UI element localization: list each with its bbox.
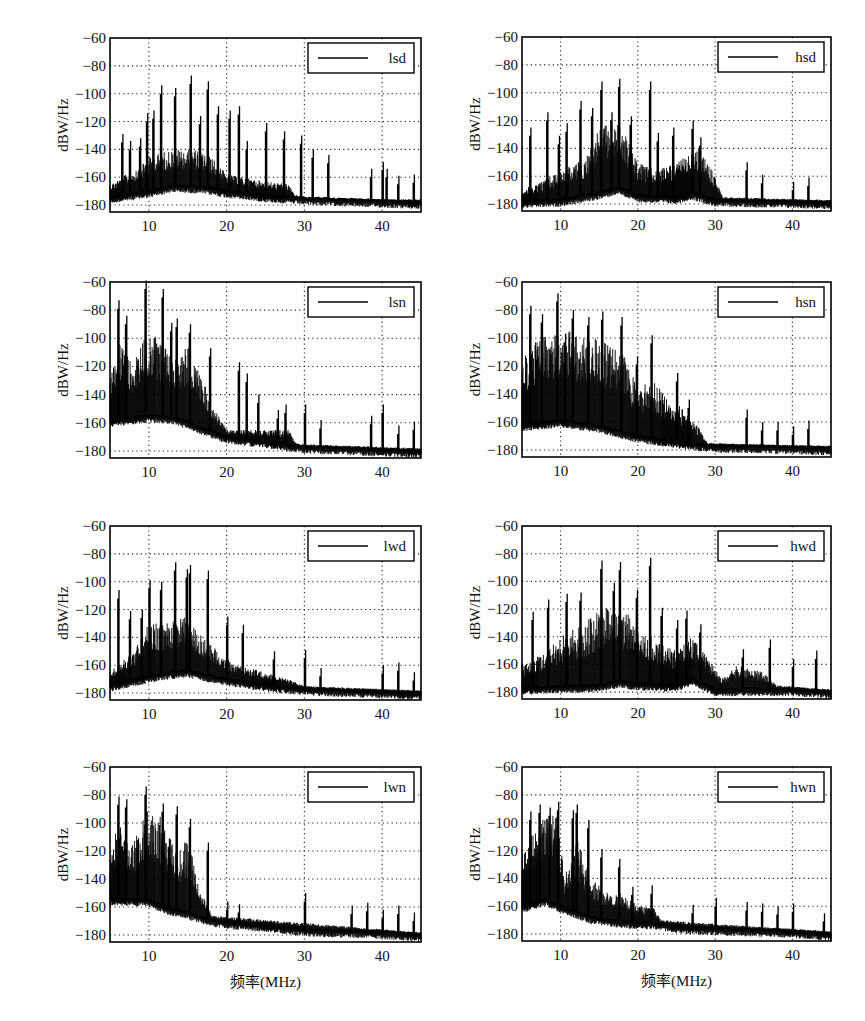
y-tick-label: −100 (487, 330, 518, 346)
x-tick-label: 40 (375, 706, 390, 722)
x-tick-label: 10 (141, 948, 156, 964)
spectrum-peaks (118, 787, 415, 935)
y-tick-label: −80 (495, 546, 518, 562)
legend-label: lsn (388, 294, 406, 310)
y-tick-label: −80 (83, 787, 106, 803)
y-tick-label: −160 (487, 656, 518, 672)
x-tick-label: 20 (219, 464, 234, 480)
y-tick-label: −140 (487, 629, 518, 645)
y-tick-label: −80 (83, 302, 106, 318)
x-tick-label: 40 (375, 218, 390, 234)
x-axis-label: 频率(MHz) (230, 974, 301, 991)
y-axis-label: dBW/Hz (467, 343, 483, 397)
y-tick-label: −180 (75, 685, 106, 701)
x-tick-label: 30 (708, 463, 723, 479)
x-tick-label: 40 (375, 948, 390, 964)
y-tick-label: −120 (487, 843, 518, 859)
x-tick-label: 10 (553, 217, 568, 233)
x-tick-label: 30 (708, 217, 723, 233)
y-tick-label: −160 (487, 898, 518, 914)
y-tick-label: −140 (75, 141, 106, 157)
y-tick-label: −140 (487, 140, 518, 156)
y-tick-label: −120 (75, 358, 106, 374)
legend-label: hwd (790, 538, 816, 554)
y-axis-label: dBW/Hz (55, 828, 71, 882)
y-tick-label: −100 (75, 574, 106, 590)
y-axis-label: dBW/Hz (467, 97, 483, 151)
x-tick-label: 10 (553, 463, 568, 479)
legend: lsd (308, 43, 414, 73)
y-tick-label: −120 (75, 843, 106, 859)
y-tick-label: −140 (75, 871, 106, 887)
y-tick-label: −60 (83, 518, 106, 534)
x-tick-label: 30 (297, 218, 312, 234)
y-tick-label: −180 (75, 197, 106, 213)
y-tick-label: −80 (83, 58, 106, 74)
y-tick-label: −80 (495, 302, 518, 318)
spectrum-panel-hwn: −60−80−100−120−140−160−18010203040dBW/Hz… (467, 759, 831, 990)
y-axis-label: dBW/Hz (55, 343, 71, 397)
y-tick-label: −100 (487, 815, 518, 831)
x-tick-label: 10 (141, 706, 156, 722)
spectrum-panel-lwn: −60−80−100−120−140−160−18010203040dBW/Hz… (55, 759, 421, 991)
x-tick-label: 30 (297, 948, 312, 964)
x-tick-label: 20 (630, 705, 645, 721)
y-tick-label: −140 (487, 386, 518, 402)
spectrum-panel-lsn: −60−80−100−120−140−160−18010203040dBW/Hz… (55, 274, 421, 480)
y-tick-label: −160 (75, 415, 106, 431)
legend-label: lwn (384, 779, 407, 795)
y-tick-label: −160 (75, 169, 106, 185)
y-tick-label: −60 (495, 518, 518, 534)
y-tick-label: −120 (487, 113, 518, 129)
x-axis-label: 频率(MHz) (641, 973, 712, 990)
y-tick-label: −180 (75, 443, 106, 459)
y-tick-label: −160 (487, 414, 518, 430)
legend-label: lwd (384, 538, 407, 554)
x-tick-label: 30 (297, 706, 312, 722)
x-tick-label: 20 (630, 463, 645, 479)
x-tick-label: 20 (219, 948, 234, 964)
x-tick-label: 20 (630, 217, 645, 233)
x-tick-label: 20 (630, 947, 645, 963)
y-tick-label: −140 (75, 629, 106, 645)
figure: −60−80−100−120−140−160−18010203040dBW/Hz… (0, 0, 865, 1021)
spectrum-panel-hwd: −60−80−100−120−140−160−18010203040dBW/Hz… (467, 518, 831, 721)
y-tick-label: −60 (495, 274, 518, 290)
x-tick-label: 40 (785, 705, 800, 721)
y-tick-label: −60 (83, 30, 106, 46)
legend: lwn (308, 772, 414, 802)
y-tick-label: −120 (75, 114, 106, 130)
y-tick-label: −100 (487, 85, 518, 101)
y-tick-label: −80 (83, 546, 106, 562)
y-tick-label: −140 (487, 870, 518, 886)
spectrum-panel-lsd: −60−80−100−120−140−160−18010203040dBW/Hz… (55, 30, 421, 234)
x-tick-label: 20 (219, 706, 234, 722)
x-tick-label: 10 (141, 464, 156, 480)
spectrum-panel-lwd: −60−80−100−120−140−160−18010203040dBW/Hz… (55, 518, 421, 722)
x-tick-label: 40 (785, 947, 800, 963)
y-tick-label: −140 (75, 387, 106, 403)
y-tick-label: −120 (487, 358, 518, 374)
legend: lsn (308, 287, 414, 317)
y-tick-label: −60 (83, 274, 106, 290)
legend: lwd (308, 531, 414, 561)
legend-label: lsd (388, 50, 406, 66)
spectrum-panel-hsd: −60−80−100−120−140−160−18010203040dBW/Hz… (467, 29, 831, 233)
x-tick-label: 40 (785, 463, 800, 479)
y-axis-label: dBW/Hz (55, 586, 71, 640)
y-tick-label: −60 (83, 759, 106, 775)
y-tick-label: −100 (487, 573, 518, 589)
y-tick-label: −180 (487, 926, 518, 942)
legend: hsn (718, 287, 824, 317)
legend-label: hsd (795, 49, 816, 65)
legend-label: hsn (795, 294, 816, 310)
x-tick-label: 30 (708, 705, 723, 721)
y-tick-label: −180 (75, 927, 106, 943)
y-tick-label: −60 (495, 759, 518, 775)
y-tick-label: −100 (75, 815, 106, 831)
y-tick-label: −160 (75, 899, 106, 915)
y-tick-label: −120 (487, 601, 518, 617)
x-tick-label: 10 (553, 705, 568, 721)
y-tick-label: −80 (495, 787, 518, 803)
x-tick-label: 40 (785, 217, 800, 233)
